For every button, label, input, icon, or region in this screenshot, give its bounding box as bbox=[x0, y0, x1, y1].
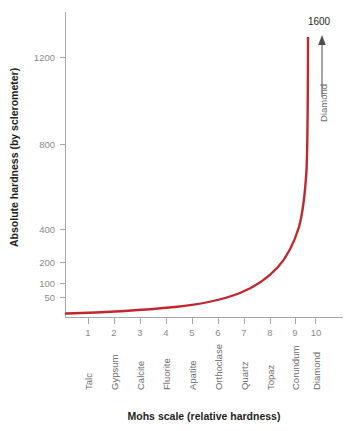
y-tick-label-400: 400 bbox=[39, 224, 55, 235]
x-axis-title: Mohs scale (relative hardness) bbox=[128, 410, 281, 422]
y-tick-label-800: 800 bbox=[39, 139, 55, 150]
mineral-label-diamond: Diamond bbox=[311, 352, 322, 390]
x-tick-label-3: 3 bbox=[137, 327, 142, 338]
x-tick-label-6: 6 bbox=[215, 327, 220, 338]
x-tick-label-1: 1 bbox=[85, 327, 90, 338]
x-axis-ticks bbox=[89, 318, 316, 325]
mineral-label-topaz: Topaz bbox=[265, 364, 276, 390]
x-tick-label-10: 10 bbox=[311, 327, 322, 338]
y-tick-label-1200: 1200 bbox=[34, 52, 55, 63]
mineral-label-calcite: Calcite bbox=[135, 361, 146, 390]
x-tick-label-7: 7 bbox=[241, 327, 246, 338]
mineral-label-corundum: Corundum bbox=[290, 346, 301, 390]
x-tick-label-8: 8 bbox=[267, 327, 272, 338]
chart-canvas: 1200 800 400 200 100 50 1 2 3 4 5 6 7 8 … bbox=[0, 0, 349, 431]
mineral-label-fluorite: Fluorite bbox=[161, 358, 172, 390]
annotation-value-1600: 1600 bbox=[308, 16, 331, 27]
y-axis-title: Absolute hardness (by sclerometer) bbox=[8, 68, 20, 247]
x-tick-label-5: 5 bbox=[189, 327, 194, 338]
x-tick-label-9: 9 bbox=[292, 327, 297, 338]
mineral-label-gypsum: Gypsum bbox=[109, 355, 120, 390]
y-tick-label-200: 200 bbox=[39, 257, 55, 268]
x-tick-label-4: 4 bbox=[163, 327, 168, 338]
y-tick-label-50: 50 bbox=[44, 292, 55, 303]
mineral-label-talc: Talc bbox=[83, 373, 94, 390]
diamond-arrow-head-icon bbox=[318, 35, 326, 45]
mineral-label-orthoclase: Orthoclase bbox=[213, 344, 224, 390]
mineral-label-quartz: Quartz bbox=[239, 361, 250, 390]
mohs-hardness-chart: 1200 800 400 200 100 50 1 2 3 4 5 6 7 8 … bbox=[0, 0, 349, 431]
y-tick-label-100: 100 bbox=[39, 278, 55, 289]
hardness-curve-line bbox=[66, 38, 308, 314]
x-tick-label-2: 2 bbox=[111, 327, 116, 338]
mineral-label-apatite: Apatite bbox=[187, 360, 198, 390]
annotation-label-diamond: Diamond bbox=[318, 84, 329, 122]
y-axis-ticks bbox=[60, 58, 66, 298]
